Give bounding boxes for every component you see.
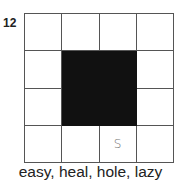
grid-cell[interactable] — [137, 51, 174, 88]
grid-cell[interactable]: S — [100, 126, 137, 163]
grid-cell[interactable] — [137, 126, 174, 163]
grid-cell[interactable] — [62, 126, 99, 163]
cell-letter: S — [114, 137, 122, 151]
grid-cell-blocked — [100, 89, 137, 126]
grid-cell[interactable] — [137, 89, 174, 126]
grid-cell[interactable] — [25, 126, 62, 163]
grid-cell[interactable] — [25, 51, 62, 88]
word-grid: S — [24, 13, 174, 163]
grid-cell[interactable] — [137, 14, 174, 51]
grid-cell[interactable] — [62, 14, 99, 51]
grid-cell[interactable] — [100, 14, 137, 51]
puzzle-number: 12 — [3, 16, 16, 30]
grid-cell-blocked — [62, 89, 99, 126]
grid-cell-blocked — [62, 51, 99, 88]
grid-cell-blocked — [100, 51, 137, 88]
clue-words: easy, heal, hole, lazy — [0, 163, 181, 181]
grid-cell[interactable] — [25, 89, 62, 126]
grid-cell[interactable] — [25, 14, 62, 51]
